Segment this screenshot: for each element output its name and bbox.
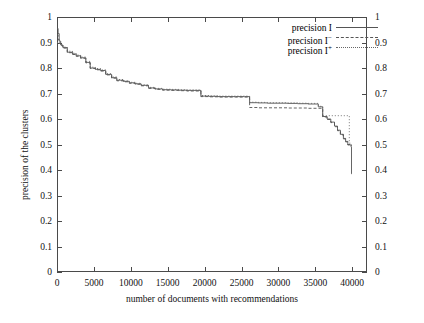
y-tick-label-left: 0.4 [8, 165, 52, 175]
chart-legend: precision I precision I− precision I+ [286, 23, 378, 53]
y-tick-label-left: 0.3 [8, 191, 52, 201]
y-tick-label-left: 0 [8, 267, 52, 277]
series-line-3 [57, 43, 352, 145]
y-tick-label-left: 0.9 [8, 38, 52, 48]
y-tick-label-left: 1 [8, 12, 52, 22]
legend-item-precision-i-plus: precision I+ [286, 43, 378, 53]
y-tick-label-left: 0.1 [8, 242, 52, 252]
y-tick-label-left: 0.2 [8, 216, 52, 226]
x-axis-title: number of documents with recommendations [92, 294, 332, 304]
x-tick-label: 40000 [327, 278, 377, 288]
y-tick-label-right: 1 [375, 12, 419, 22]
y-tick-label-left: 0.8 [8, 63, 52, 73]
legend-superscript: + [328, 44, 332, 52]
legend-label-precision-i-plus: precision I+ [288, 43, 332, 56]
chart-figure: 00.10.20.30.40.50.60.70.80.91 00.10.20.3… [0, 0, 424, 323]
y-tick-label-right: 0.7 [375, 89, 419, 99]
y-tick-label-right: 0.4 [375, 165, 419, 175]
legend-item-precision-i-minus: precision I− [286, 33, 378, 43]
legend-item-precision-i: precision I [286, 23, 378, 33]
y-tick-label-left: 0.5 [8, 140, 52, 150]
y-tick-label-right: 0.1 [375, 242, 419, 252]
y-tick-label-left: 0.7 [8, 89, 52, 99]
y-tick-label-right: 0.6 [375, 114, 419, 124]
y-axis-title: precision of the clusters [20, 109, 30, 200]
legend-key-solid-line [336, 27, 378, 30]
y-tick-label-right: 0.5 [375, 140, 419, 150]
y-tick-label-right: 0.2 [375, 216, 419, 226]
y-tick-label-right: 0.3 [375, 191, 419, 201]
y-tick-label-right: 0.8 [375, 63, 419, 73]
y-tick-label-left: 0.6 [8, 114, 52, 124]
legend-label-precision-i: precision I [292, 23, 332, 33]
y-tick-label-right: 0 [375, 267, 419, 277]
legend-key-dotted-line [336, 47, 378, 50]
legend-superscript: − [328, 34, 332, 42]
y-tick-label-right: 0.9 [375, 38, 419, 48]
legend-key-dashed-line [336, 37, 378, 40]
